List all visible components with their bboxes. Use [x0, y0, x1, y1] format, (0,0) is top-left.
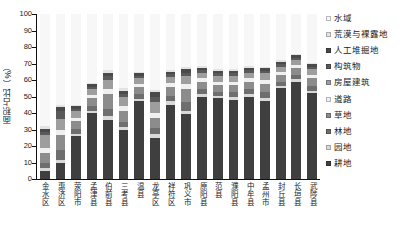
x-tick-label: 濮阳县 [229, 182, 237, 206]
stacked-bar [71, 14, 81, 179]
y-tick-label: 100 [19, 10, 32, 18]
x-tick-label: 三考县 [119, 182, 127, 206]
legend-label: 草地 [334, 111, 352, 120]
bar-slot [194, 14, 210, 179]
legend-label: 水域 [334, 14, 352, 23]
bar-segment [166, 87, 176, 95]
x-label-slot: 长垣县 [289, 181, 305, 241]
stacked-bar [119, 14, 129, 179]
bar-slot [178, 14, 194, 179]
bar-segment [213, 85, 223, 92]
legend-label: 构筑物 [334, 62, 361, 71]
stacked-bar [260, 14, 270, 179]
y-tick-label: 50 [24, 93, 32, 101]
stacked-bar [166, 14, 176, 179]
bar-slot [226, 14, 242, 179]
legend-item: 房屋建筑 [326, 75, 406, 91]
x-tick-label: 伯前县 [104, 182, 112, 206]
x-label-slot: 温县 [131, 181, 147, 241]
stacked-bar [213, 14, 223, 179]
bar-segment [276, 75, 286, 82]
bar-segment [229, 85, 239, 92]
bar-segment [71, 136, 81, 179]
x-label-slot: 武陟县 [304, 181, 320, 241]
bar-segment [197, 82, 207, 89]
legend-swatch-icon [326, 129, 331, 134]
bar-segment [71, 111, 81, 118]
legend-label: 荒漠与裸露地 [334, 30, 388, 39]
legend-swatch-icon [326, 80, 331, 85]
legend-swatch-icon [326, 161, 331, 166]
legend-item: 道路 [326, 91, 406, 107]
bar-segment [103, 120, 113, 179]
legend-swatch-icon [326, 145, 331, 150]
bar-segment [213, 14, 223, 69]
x-tick-label: 金水区 [41, 182, 49, 206]
stacked-bar [40, 14, 50, 179]
bar-slot [163, 14, 179, 179]
x-tick-label: 封丘县 [277, 182, 285, 206]
bar-segment [103, 94, 113, 109]
x-axis-labels: 金水区惠济区荥阳市孟津县伯前县三考县温县龙亭区祥符区巩义市原阳县范县濮阳县中牟县… [37, 181, 320, 241]
bar-segment [307, 78, 317, 85]
bar-segment [40, 153, 50, 163]
x-label-slot: 孟州市 [257, 181, 273, 241]
bar-segment [103, 80, 113, 89]
bar-segment [134, 87, 144, 94]
x-label-slot: 龙亭区 [147, 181, 163, 241]
bar-slot [100, 14, 116, 179]
legend-swatch-icon [326, 32, 331, 37]
bar-segment [229, 100, 239, 179]
bar-slot [241, 14, 257, 179]
x-label-slot: 惠济区 [53, 181, 69, 241]
bar-segment [291, 68, 301, 75]
x-label-slot: 三考县 [116, 181, 132, 241]
chart-legend: 水域荒漠与裸露地人工堆掘地构筑物房屋建筑道路草地林地园地耕地 [326, 10, 406, 172]
x-tick-label: 祥符区 [167, 182, 175, 206]
y-tick-label: 20 [24, 142, 32, 150]
x-tick-label: 原阳县 [198, 182, 206, 206]
bar-segment [134, 101, 144, 179]
bar-slot [116, 14, 132, 179]
legend-item: 水域 [326, 10, 406, 26]
bar-segment [56, 111, 66, 118]
legend-swatch-icon [326, 48, 331, 53]
bar-segment [181, 14, 191, 67]
x-tick-label: 范县 [214, 182, 222, 198]
legend-item: 耕地 [326, 156, 406, 172]
bar-segment [166, 105, 176, 179]
stacked-bar [307, 14, 317, 179]
bar-segment [244, 82, 254, 89]
bar-segment [150, 128, 160, 135]
bar-segment [40, 135, 50, 148]
stacked-bar [291, 14, 301, 179]
bar-segment [181, 114, 191, 179]
stacked-bar [134, 14, 144, 179]
legend-label: 人工堆掘地 [334, 46, 379, 55]
bar-segment [150, 14, 160, 90]
x-tick-label: 武陟县 [308, 182, 316, 206]
bar-segment [87, 113, 97, 179]
y-tick-label: 10 [24, 159, 32, 167]
stacked-bar [87, 14, 97, 179]
legend-swatch-icon [326, 64, 331, 69]
bar-segment [150, 118, 160, 128]
bar-slot [257, 14, 273, 179]
bar-segment [56, 135, 66, 150]
x-label-slot: 范县 [210, 181, 226, 241]
bar-segment [56, 163, 66, 179]
bar-segment [150, 102, 160, 113]
y-tick-label: 80 [24, 43, 32, 51]
bar-segment [244, 97, 254, 180]
bar-slot [210, 14, 226, 179]
bar-slot [147, 14, 163, 179]
bar-segment [181, 102, 191, 110]
stacked-bar [276, 14, 286, 179]
x-label-slot: 荥阳市 [68, 181, 84, 241]
bar-slot [273, 14, 289, 179]
bar-slot [289, 14, 305, 179]
legend-label: 房屋建筑 [334, 78, 370, 87]
legend-item: 人工堆掘地 [326, 42, 406, 58]
bar-segment [291, 82, 301, 179]
y-tick-label: 60 [24, 76, 32, 84]
